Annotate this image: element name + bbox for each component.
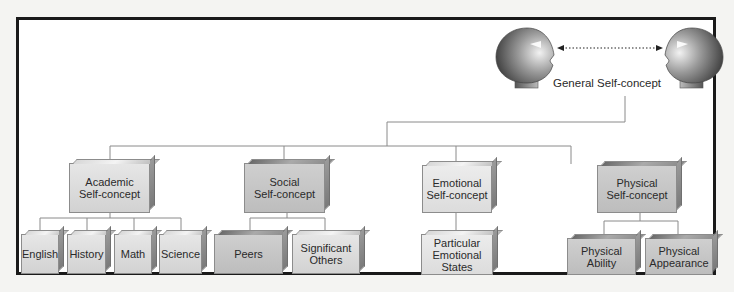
peers-box: Peers	[214, 234, 283, 274]
physical-self-concept-box: Physical Self-concept	[597, 165, 677, 213]
dotted-arrow-icon	[557, 45, 663, 51]
particular-emotional-states-box: Particular Emotional States	[421, 234, 493, 275]
history-box: History	[67, 234, 106, 274]
academic-self-concept-box: Academic Self-concept	[69, 163, 150, 213]
social-self-concept-box: Social Self-concept	[244, 163, 325, 213]
emotional-self-concept-box: Emotional Self-concept	[422, 165, 492, 213]
physical-ability-box: Physical Ability	[567, 238, 636, 275]
science-box: Science	[159, 234, 202, 274]
left-head-icon	[496, 28, 554, 88]
significant-others-box: Significant Others	[292, 234, 360, 274]
general-self-concept-label: General Self-concept	[553, 77, 661, 89]
physical-appearance-box: Physical Appearance	[645, 238, 713, 275]
english-box: English	[21, 234, 59, 274]
math-box: Math	[114, 234, 152, 274]
right-head-icon	[665, 28, 723, 88]
